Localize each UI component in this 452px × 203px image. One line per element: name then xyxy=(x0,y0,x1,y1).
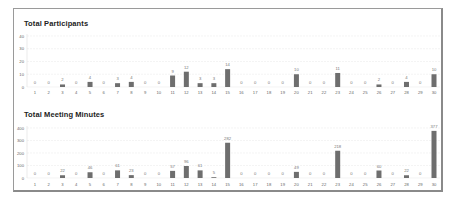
value-label: 4 xyxy=(130,75,133,80)
x-tick-label: 15 xyxy=(225,182,230,187)
value-label: 0 xyxy=(240,80,243,85)
bar[interactable] xyxy=(376,84,381,87)
x-tick-label: 1 xyxy=(34,90,37,95)
bar[interactable] xyxy=(184,72,189,87)
value-label: 3 xyxy=(199,76,202,81)
value-label: 5 xyxy=(213,170,216,175)
x-tick-label: 18 xyxy=(267,90,272,95)
value-label: 9 xyxy=(171,69,174,74)
x-tick-label: 2 xyxy=(48,90,51,95)
value-label: 0 xyxy=(350,80,353,85)
value-label: 0 xyxy=(158,171,161,176)
x-tick-label: 27 xyxy=(390,182,395,187)
bar[interactable] xyxy=(376,171,381,179)
x-tick-label: 1 xyxy=(34,182,37,187)
x-tick-label: 23 xyxy=(335,182,340,187)
value-label: 0 xyxy=(144,171,147,176)
bar[interactable] xyxy=(211,83,216,87)
bar[interactable] xyxy=(129,175,134,178)
value-label: 10 xyxy=(432,67,437,72)
value-label: 0 xyxy=(281,171,284,176)
x-tick-label: 22 xyxy=(322,90,327,95)
x-tick-label: 8 xyxy=(130,90,133,95)
value-label: 2 xyxy=(61,77,64,82)
bar[interactable] xyxy=(198,170,203,178)
value-label: 0 xyxy=(309,80,312,85)
value-label: 0 xyxy=(254,80,257,85)
bar[interactable] xyxy=(432,131,437,178)
value-label: 0 xyxy=(268,80,271,85)
value-label: 11 xyxy=(336,66,341,71)
value-label: 57 xyxy=(170,164,175,169)
x-tick-label: 14 xyxy=(212,182,217,187)
x-tick-label: 6 xyxy=(103,182,106,187)
x-tick-label: 11 xyxy=(170,182,175,187)
bar[interactable] xyxy=(170,171,175,178)
value-label: 0 xyxy=(103,80,106,85)
bar[interactable] xyxy=(432,74,437,87)
x-tick-label: 20 xyxy=(294,182,299,187)
x-tick-label: 21 xyxy=(308,182,313,187)
value-label: 0 xyxy=(34,171,37,176)
value-label: 22 xyxy=(404,168,409,173)
value-label: 0 xyxy=(268,171,271,176)
x-tick-label: 26 xyxy=(377,90,382,95)
x-tick-label: 5 xyxy=(89,90,92,95)
value-label: 2 xyxy=(378,77,381,82)
value-label: 377 xyxy=(431,124,439,129)
bar[interactable] xyxy=(404,175,409,178)
x-tick-label: 26 xyxy=(377,182,382,187)
value-label: 4 xyxy=(405,75,408,80)
x-tick-label: 19 xyxy=(280,182,285,187)
x-tick-label: 25 xyxy=(363,182,368,187)
x-tick-label: 22 xyxy=(322,182,327,187)
bar[interactable] xyxy=(60,84,65,87)
bar[interactable] xyxy=(335,73,340,87)
bar[interactable] xyxy=(294,172,299,178)
bar[interactable] xyxy=(294,74,299,87)
bar-charts: 0102030400102230445063748090109111212313… xyxy=(0,0,452,203)
value-label: 4 xyxy=(89,75,92,80)
value-label: 61 xyxy=(115,163,120,168)
value-label: 3 xyxy=(213,76,216,81)
x-tick-label: 17 xyxy=(253,182,258,187)
value-label: 0 xyxy=(75,80,78,85)
bar[interactable] xyxy=(88,172,93,178)
x-tick-label: 28 xyxy=(404,182,409,187)
bar[interactable] xyxy=(115,83,120,87)
value-label: 0 xyxy=(254,171,257,176)
y-tick-label: 40 xyxy=(19,34,24,39)
x-tick-label: 4 xyxy=(75,182,78,187)
value-label: 0 xyxy=(323,171,326,176)
y-tick-label: 300 xyxy=(17,138,25,143)
x-tick-label: 10 xyxy=(156,90,161,95)
value-label: 46 xyxy=(88,165,93,170)
value-label: 0 xyxy=(240,171,243,176)
value-label: 0 xyxy=(75,171,78,176)
value-label: 0 xyxy=(364,171,367,176)
bar[interactable] xyxy=(225,69,230,87)
bar[interactable] xyxy=(88,82,93,87)
bar[interactable] xyxy=(129,82,134,87)
x-tick-label: 28 xyxy=(404,90,409,95)
bar[interactable] xyxy=(115,170,120,178)
y-tick-label: 30 xyxy=(19,46,24,51)
bar[interactable] xyxy=(335,151,340,178)
value-label: 0 xyxy=(309,171,312,176)
bar[interactable] xyxy=(404,82,409,87)
x-tick-label: 7 xyxy=(116,90,119,95)
bar[interactable] xyxy=(170,76,175,87)
bar[interactable] xyxy=(225,143,230,178)
x-tick-label: 13 xyxy=(198,90,203,95)
x-tick-label: 6 xyxy=(103,90,106,95)
bar[interactable] xyxy=(60,175,65,178)
y-tick-label: 10 xyxy=(19,72,24,77)
bar[interactable] xyxy=(198,83,203,87)
x-tick-label: 9 xyxy=(144,182,147,187)
bar[interactable] xyxy=(211,177,216,178)
x-tick-label: 29 xyxy=(418,90,423,95)
bar[interactable] xyxy=(184,166,189,178)
x-tick-label: 18 xyxy=(267,182,272,187)
y-tick-label: 0 xyxy=(22,176,25,181)
value-label: 0 xyxy=(158,80,161,85)
